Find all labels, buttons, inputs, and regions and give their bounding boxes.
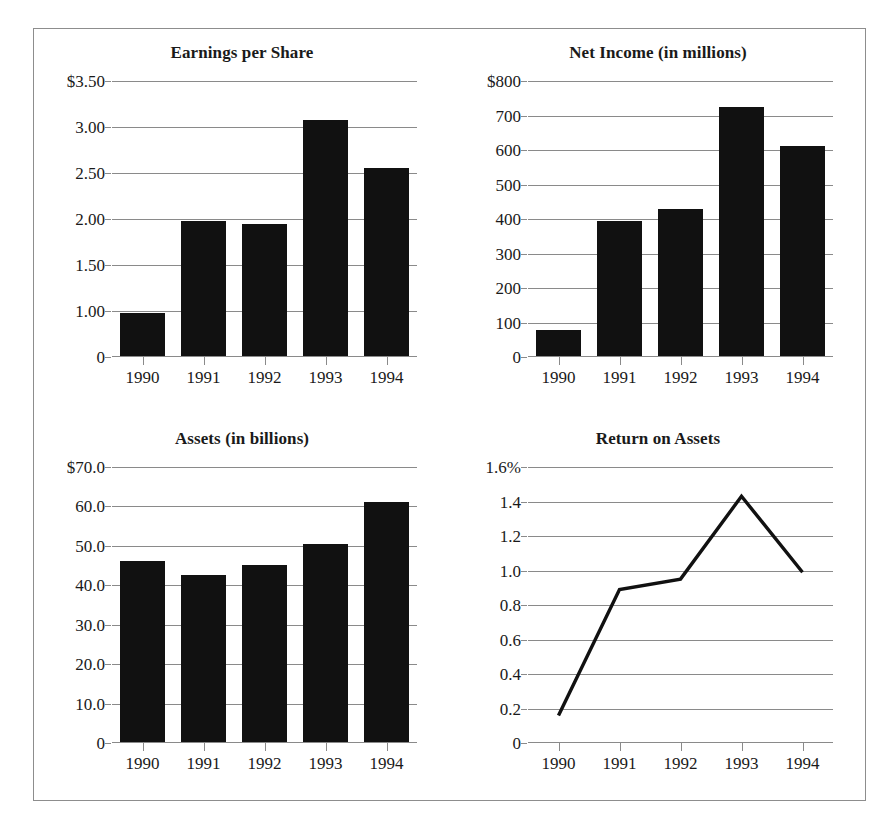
- bar: [597, 221, 642, 356]
- x-tick-mark: [143, 357, 144, 365]
- y-tick-mark: [521, 605, 527, 606]
- y-tick-mark: [521, 674, 527, 675]
- y-tick-mark: [521, 536, 527, 537]
- y-axis-tick-label: 0: [513, 349, 522, 366]
- gridline: [112, 127, 417, 128]
- y-axis-tick-label: $70.0: [67, 459, 105, 476]
- chart-title-earnings-per-share: Earnings per Share: [34, 43, 450, 63]
- y-axis-tick-label: 700: [496, 107, 522, 124]
- x-tick-mark: [265, 743, 266, 751]
- x-tick-mark: [742, 357, 743, 365]
- y-axis-tick-label: 10.0: [75, 695, 105, 712]
- y-tick-mark: [521, 116, 527, 117]
- x-tick-mark: [559, 743, 560, 751]
- chart-title-return-on-assets: Return on Assets: [450, 429, 866, 449]
- x-axis-tick-label: 1990: [542, 755, 576, 772]
- bar: [780, 146, 825, 356]
- y-axis-tick-label: 1.00: [75, 303, 105, 320]
- x-tick-mark: [204, 357, 205, 365]
- bar: [303, 544, 348, 742]
- y-tick-mark: [521, 81, 527, 82]
- y-axis-tick-label: 0: [513, 735, 522, 752]
- y-tick-mark: [105, 664, 111, 665]
- chart-title-net-income: Net Income (in millions): [450, 43, 866, 63]
- bar: [181, 575, 226, 742]
- y-axis-tick-label: 1.2: [500, 528, 521, 545]
- x-axis-tick-label: 1992: [248, 755, 282, 772]
- y-tick-mark: [521, 467, 527, 468]
- y-tick-mark: [521, 743, 527, 744]
- y-axis-tick-label: 200: [496, 280, 522, 297]
- y-tick-mark: [521, 219, 527, 220]
- y-tick-mark: [105, 127, 111, 128]
- x-tick-mark: [681, 357, 682, 365]
- bar: [658, 209, 703, 356]
- chart-panel-assets: Assets (in billions) $70.060.050.040.030…: [34, 415, 450, 801]
- y-axis-tick-label: 400: [496, 211, 522, 228]
- y-axis-tick-label: 0.4: [500, 666, 521, 683]
- bar: [242, 224, 287, 356]
- x-tick-mark: [742, 743, 743, 751]
- y-axis-tick-label: 0: [97, 735, 106, 752]
- gridline: [528, 116, 833, 117]
- y-tick-mark: [105, 173, 111, 174]
- x-tick-mark: [143, 743, 144, 751]
- x-axis-tick-label: 1990: [542, 369, 576, 386]
- y-tick-mark: [521, 288, 527, 289]
- y-tick-mark: [105, 625, 111, 626]
- x-tick-mark: [326, 357, 327, 365]
- y-axis-tick-label: 60.0: [75, 498, 105, 515]
- x-axis-tick-label: 1990: [126, 755, 160, 772]
- y-axis-tick-label: 1.6%: [486, 459, 521, 476]
- bar: [364, 502, 409, 742]
- bar: [242, 565, 287, 742]
- y-tick-mark: [521, 185, 527, 186]
- y-axis-tick-label: 30.0: [75, 616, 105, 633]
- y-axis-tick-label: 2.00: [75, 211, 105, 228]
- y-axis-tick-label: 0.6: [500, 631, 521, 648]
- y-axis-tick-label: 600: [496, 142, 522, 159]
- plot-area-assets: $70.060.050.040.030.020.010.001990199119…: [112, 467, 417, 743]
- x-axis-tick-label: 1992: [664, 369, 698, 386]
- y-tick-mark: [105, 265, 111, 266]
- y-tick-mark: [105, 81, 111, 82]
- x-axis-tick-label: 1991: [187, 755, 221, 772]
- y-axis-tick-label: 0: [97, 349, 106, 366]
- x-axis-tick-label: 1993: [309, 755, 343, 772]
- y-tick-mark: [521, 571, 527, 572]
- x-tick-mark: [387, 357, 388, 365]
- x-axis-tick-label: 1990: [126, 369, 160, 386]
- y-axis-tick-label: 50.0: [75, 537, 105, 554]
- x-axis-tick-label: 1991: [603, 369, 637, 386]
- x-tick-mark: [387, 743, 388, 751]
- x-tick-mark: [803, 743, 804, 751]
- x-axis-tick-label: 1992: [248, 369, 282, 386]
- y-axis-tick-label: 1.4: [500, 493, 521, 510]
- chart-panel-earnings-per-share: Earnings per Share $3.503.002.502.001.50…: [34, 29, 450, 415]
- gridline: [112, 81, 417, 82]
- y-tick-mark: [521, 709, 527, 710]
- y-axis-tick-label: 0.8: [500, 597, 521, 614]
- bar: [536, 330, 581, 356]
- x-tick-mark: [204, 743, 205, 751]
- x-axis-tick-label: 1993: [309, 369, 343, 386]
- y-tick-mark: [521, 150, 527, 151]
- y-axis-tick-label: 500: [496, 176, 522, 193]
- x-tick-mark: [559, 357, 560, 365]
- y-tick-mark: [105, 585, 111, 586]
- x-axis-tick-label: 1993: [725, 369, 759, 386]
- x-axis-tick-label: 1993: [725, 755, 759, 772]
- y-tick-mark: [105, 219, 111, 220]
- figure-frame: Earnings per Share $3.503.002.502.001.50…: [33, 28, 866, 801]
- x-tick-mark: [620, 357, 621, 365]
- y-axis-tick-label: 0.2: [500, 700, 521, 717]
- y-axis-tick-label: 1.0: [500, 562, 521, 579]
- y-tick-mark: [521, 323, 527, 324]
- gridline: [528, 81, 833, 82]
- y-axis-tick-label: $3.50: [67, 73, 105, 90]
- y-tick-mark: [105, 743, 111, 744]
- y-tick-mark: [521, 640, 527, 641]
- y-axis-tick-label: 1.50: [75, 257, 105, 274]
- y-tick-mark: [105, 506, 111, 507]
- plot-area-earnings-per-share: $3.503.002.502.001.501.00019901991199219…: [112, 81, 417, 357]
